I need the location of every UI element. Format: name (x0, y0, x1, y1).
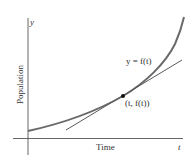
population-curve (28, 17, 184, 131)
x-axis-var-label: t (178, 142, 181, 152)
point-label: (t, f(t)) (125, 98, 150, 108)
y-axis-var-label: y (29, 17, 34, 27)
population-tangent-chart: y t Time Population y = f(t) (t, f(t)) (0, 0, 194, 164)
curve-label: y = f(t) (126, 56, 152, 66)
x-axis-title: Time (96, 142, 115, 152)
y-axis-title: Population (15, 64, 25, 104)
